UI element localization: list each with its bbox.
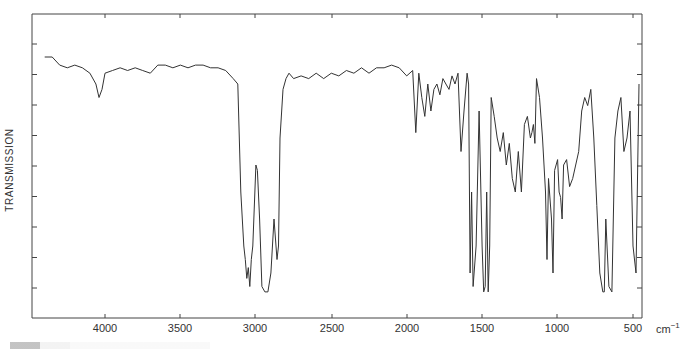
plot-frame bbox=[32, 14, 642, 318]
unit-exponent: −1 bbox=[671, 321, 680, 330]
unit-base: cm bbox=[656, 323, 671, 335]
x-tick-label: 2500 bbox=[320, 322, 344, 334]
x-tick-label: 4000 bbox=[93, 322, 117, 334]
x-tick-label: 3500 bbox=[168, 322, 192, 334]
y-axis-label: TRANSMISSION bbox=[4, 128, 15, 211]
x-tick-label: 2000 bbox=[395, 322, 419, 334]
x-axis-ticks bbox=[105, 14, 633, 318]
x-tick-label: 500 bbox=[624, 322, 642, 334]
x-axis-unit-label: cm−1 bbox=[656, 321, 680, 335]
spectrum-line bbox=[45, 57, 639, 292]
x-tick-label: 3000 bbox=[243, 322, 267, 334]
y-axis-ticks bbox=[32, 44, 642, 288]
x-tick-label: 1000 bbox=[545, 322, 569, 334]
x-tick-label: 1500 bbox=[470, 322, 494, 334]
figure-caption-cutoff bbox=[10, 342, 210, 349]
ir-spectrum-chart bbox=[0, 0, 690, 349]
